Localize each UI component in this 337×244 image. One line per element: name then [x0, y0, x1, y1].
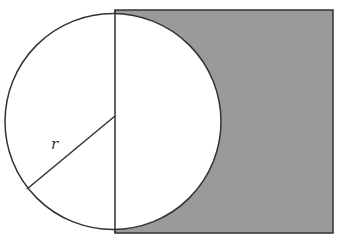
radius-label: r: [51, 135, 59, 153]
diagram-canvas: r: [0, 0, 337, 244]
circle: [5, 14, 221, 230]
